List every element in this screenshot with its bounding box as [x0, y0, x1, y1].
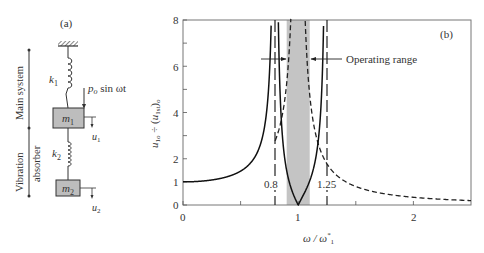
spring-k1-icon: [66, 46, 72, 108]
u2-arrowhead-icon: [91, 195, 94, 199]
panel-a-schematic: (a) Main system Vibration absorber k1 po…: [14, 17, 126, 215]
y-tick-labels: 0 1 2 4 6 8: [173, 14, 179, 211]
arrow-left-icon: [311, 57, 317, 61]
figure-canvas: (a) Main system Vibration absorber k1 po…: [0, 0, 484, 253]
operating-range-label: Operating range: [346, 53, 417, 65]
marker-0-8-label: 0.8: [264, 178, 278, 190]
ground-hatch-icon: [58, 41, 78, 46]
panel-a-label: (a): [60, 17, 73, 30]
spring-k2-label: k2: [52, 147, 61, 162]
x-axis-label: ω / ω*1: [303, 231, 335, 246]
spring-k2-icon: [68, 128, 71, 180]
svg-text:0: 0: [180, 211, 186, 223]
vibration-label: Vibration: [14, 152, 25, 192]
main-system-label: Main system: [14, 66, 25, 120]
svg-text:8: 8: [173, 14, 179, 26]
svg-text:6: 6: [173, 61, 179, 73]
arrow-right-icon: [281, 57, 287, 61]
panel-b-label: (b): [440, 28, 453, 41]
u2-label: u2: [92, 202, 101, 215]
u1-label: u1: [92, 131, 101, 144]
svg-text:2: 2: [411, 211, 417, 223]
svg-text:2: 2: [173, 153, 179, 165]
force-label: po sin ωt: [87, 82, 126, 96]
svg-text:1: 1: [173, 176, 179, 188]
svg-text:1: 1: [295, 211, 301, 223]
spring-k1-label: k1: [49, 73, 58, 88]
absorber-label: absorber: [31, 145, 42, 182]
y-axis-label: u1o ÷ (u1st)o: [148, 99, 162, 148]
svg-text:4: 4: [173, 107, 179, 119]
svg-text:0: 0: [173, 199, 179, 211]
x-tick-labels: 0 1 2: [180, 211, 417, 223]
panel-b-chart: 0 1 2 4 6 8 0 1 2 ω / ω*1 u1o ÷ (u1st)o …: [148, 14, 471, 246]
marker-1-25-label: 1.25: [317, 178, 337, 190]
u1-arrowhead-icon: [91, 124, 94, 128]
